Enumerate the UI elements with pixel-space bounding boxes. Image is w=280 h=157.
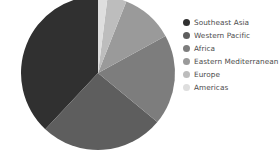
legend-swatch-icon <box>183 32 190 39</box>
legend-label: Africa <box>194 42 215 55</box>
legend-label: Southeast Asia <box>194 16 249 29</box>
legend-label: Western Pacific <box>194 29 250 42</box>
legend-swatch-icon <box>183 71 190 78</box>
legend-item-eastern-mediterranean[interactable]: Eastern Mediterranean <box>183 55 280 68</box>
legend-label: Europe <box>194 68 220 81</box>
legend-item-western-pacific[interactable]: Western Pacific <box>183 29 280 42</box>
legend-label: Americas <box>194 81 228 94</box>
legend-swatch-icon <box>183 45 190 52</box>
legend-swatch-icon <box>183 19 190 26</box>
legend-swatch-icon <box>183 84 190 91</box>
legend-label: Eastern Mediterranean <box>194 55 278 68</box>
legend-item-southeast-asia[interactable]: Southeast Asia <box>183 16 280 29</box>
legend-item-africa[interactable]: Africa <box>183 42 280 55</box>
chart-legend: Southeast Asia Western Pacific Africa Ea… <box>183 16 280 94</box>
pie-chart-figure: Southeast Asia Western Pacific Africa Ea… <box>0 0 280 157</box>
legend-item-americas[interactable]: Americas <box>183 81 280 94</box>
pie-slice-group <box>21 0 175 150</box>
legend-swatch-icon <box>183 58 190 65</box>
legend-item-europe[interactable]: Europe <box>183 68 280 81</box>
